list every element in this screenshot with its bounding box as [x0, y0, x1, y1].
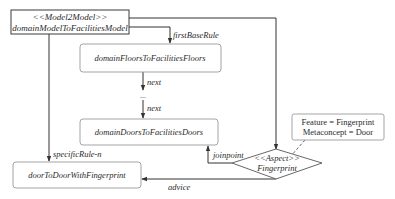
aspect-name: Fingerprint [256, 163, 297, 173]
specific-rule-label: specificRule-n [53, 149, 102, 159]
advice-label: advice [168, 182, 190, 192]
first-base-rule-label: firstBaseRule [173, 30, 219, 40]
root-name: domainModelToFacilitiesModel [12, 23, 128, 33]
note-line-1: Feature = Fingerprint [302, 117, 375, 127]
next-label-2: next [147, 103, 162, 113]
floors-node-label: domainFloorsToFacilitiesFloors [94, 53, 206, 63]
root-node[interactable]: <<Model2Model>> domainModelToFacilitiesM… [11, 10, 129, 34]
first-base-rule-edge [129, 27, 170, 43]
aspect-diamond[interactable]: <<Aspect>> Fingerprint [232, 149, 322, 179]
ellipsis-label: ... [140, 91, 146, 100]
next-label-1: next [147, 77, 162, 87]
doors-node[interactable]: domainDoorsToFacilitiesDoors [80, 119, 218, 145]
door-fingerprint-node-label: doorToDoorWithFingerprint [28, 170, 126, 180]
root-stereotype: <<Model2Model>> [33, 12, 108, 22]
note-line-2: Metaconcept = Door [303, 127, 374, 137]
door-fingerprint-node[interactable]: doorToDoorWithFingerprint [13, 162, 141, 188]
aspect-stereotype: <<Aspect>> [254, 153, 300, 163]
doors-node-label: domainDoorsToFacilitiesDoors [95, 127, 204, 137]
model-transformation-diagram: <<Model2Model>> domainModelToFacilitiesM… [0, 0, 395, 199]
joinpoint-label: joinpoint [212, 150, 244, 160]
note-box: Feature = Fingerprint Metaconcept = Door [292, 114, 384, 140]
advice-edge [142, 178, 276, 179]
floors-node[interactable]: domainFloorsToFacilitiesFloors [80, 44, 221, 72]
